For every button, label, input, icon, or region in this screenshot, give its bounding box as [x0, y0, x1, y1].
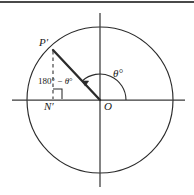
right-angle-icon: [53, 89, 62, 99]
angle-label-theta: θ°: [113, 68, 123, 79]
point-label-p-prime: P′: [39, 37, 48, 48]
figure-container: P′ N′ O θ° 180° − θ°: [0, 0, 194, 195]
point-label-origin: O: [104, 101, 112, 112]
angle-label-supplementary: 180° − θ°: [38, 77, 73, 86]
point-label-n-prime: N′: [44, 101, 54, 112]
supplementary-suffix: °: [69, 76, 73, 86]
circle-diagram-svg: [0, 0, 194, 195]
supplementary-prefix: 180° −: [38, 76, 65, 86]
